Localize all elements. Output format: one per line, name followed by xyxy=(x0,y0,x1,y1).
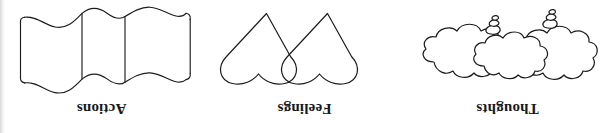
two-overlapping-hearts-icon xyxy=(203,4,406,96)
panel-feelings: Feelings xyxy=(203,0,406,133)
cbt-triangle-symbols-figure: Actions Feelings xyxy=(0,0,610,133)
panel-caption-actions: Actions xyxy=(0,99,203,118)
panel-thoughts: Thoughts xyxy=(406,0,609,133)
panel-caption-thoughts: Thoughts xyxy=(406,99,609,118)
thought-bubble-clouds-icon xyxy=(406,4,609,96)
panel-actions: Actions xyxy=(0,0,203,133)
panel-caption-feelings: Feelings xyxy=(203,99,406,118)
wavy-flag-banner-icon xyxy=(0,4,203,96)
